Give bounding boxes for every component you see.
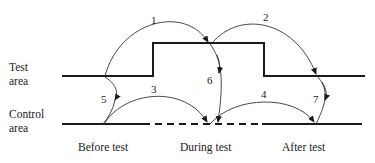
period-after-test: After test (282, 141, 326, 153)
test-area-line (62, 43, 365, 76)
arrow-3 (104, 96, 207, 124)
label-5: 5 (101, 93, 107, 105)
label-1: 1 (151, 14, 157, 26)
label-3: 3 (151, 83, 157, 95)
arrow-4 (210, 102, 314, 124)
label-6: 6 (207, 74, 213, 86)
arrow-1 (105, 22, 208, 76)
arrow-5 (105, 77, 117, 100)
control-area-label-line1: Control (9, 108, 44, 120)
label-4: 4 (261, 88, 267, 100)
period-during-test: During test (180, 141, 232, 154)
control-area-label-line2: area (9, 122, 28, 134)
test-area-label-line1: Test (9, 61, 29, 73)
label-2: 2 (263, 11, 269, 23)
test-area-label-line2: area (9, 75, 28, 87)
comparison-diagram: 1 2 3 4 5 6 7 Test area Control area Bef… (0, 0, 375, 163)
label-7: 7 (313, 93, 319, 105)
period-before-test: Before test (78, 141, 129, 153)
